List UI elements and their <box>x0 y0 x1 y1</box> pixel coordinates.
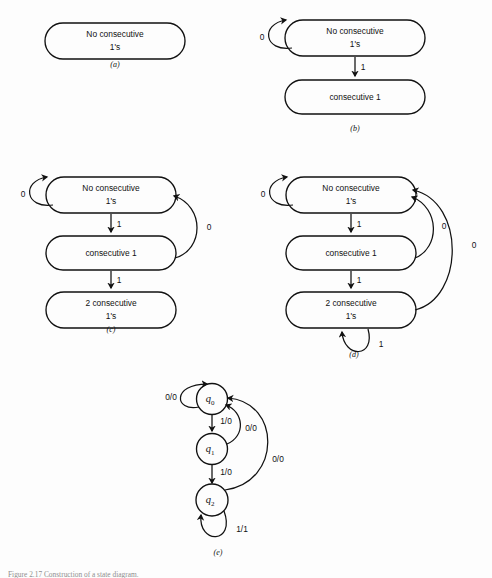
self-loop-arc-no-consecutive <box>30 177 53 205</box>
state-label-q1: q1 <box>206 443 215 456</box>
state-label-line1: No consecutive <box>86 29 144 39</box>
panel-e: q0 0/0 1/0 q1 0/0 1/0 q2 0/0 1/1 <box>150 378 330 558</box>
edge-label-q0-q1: 1/0 <box>220 416 232 426</box>
state-label-consecutive-1: consecutive 1 <box>325 248 377 258</box>
self-loop-label-q2: 1/1 <box>236 524 248 534</box>
edge-label-q2-q0: 0/0 <box>272 454 284 464</box>
panel-caption-a: (a) <box>95 60 135 69</box>
edge-label-1b: 1 <box>117 275 122 285</box>
state-label-q2: q2 <box>206 494 215 507</box>
self-loop-label-1: 1 <box>379 339 384 349</box>
state-label-2-consecutive-line1: 2 consecutive <box>325 298 377 308</box>
edge-label-0-outer: 0 <box>472 240 477 250</box>
edge-label-1a: 1 <box>357 219 362 229</box>
self-loop-label-0: 0 <box>261 189 266 199</box>
panel-caption-d: (d) <box>334 350 374 359</box>
panel-b: No consecutive 1's 0 1 consecutive 1 <box>250 14 470 124</box>
state-label-q0: q0 <box>206 393 215 406</box>
state-label-line1: No consecutive <box>326 26 384 36</box>
edge-label-1: 1 <box>361 62 366 72</box>
self-loop-arc-no-consecutive <box>269 20 292 48</box>
edge-arc-return-0-outer <box>413 190 452 310</box>
edge-label-q1-q0: 0/0 <box>245 423 257 433</box>
self-loop-label-0: 0 <box>260 32 265 42</box>
edge-arc-return-0 <box>174 196 197 258</box>
state-label-line2: 1's <box>350 39 360 49</box>
panel-c: No consecutive 1's 0 1 consecutive 1 1 2… <box>8 170 238 330</box>
self-loop-label-0: 0 <box>21 189 26 199</box>
state-label-2-consecutive-line2: 1's <box>346 311 356 321</box>
panel-a: No consecutive 1's <box>40 18 200 78</box>
state-label-2-consecutive-line1: 2 consecutive <box>85 298 137 308</box>
state-label-consecutive-1: consecutive 1 <box>329 92 381 102</box>
state-label-line2: 1's <box>106 196 116 206</box>
edge-label-q1-q2: 1/0 <box>220 467 232 477</box>
state-label-line1: No consecutive <box>82 183 140 193</box>
state-label-line2: 1's <box>346 196 356 206</box>
edge-label-0-inner: 0 <box>442 221 447 231</box>
state-label-line2: 1's <box>110 42 120 52</box>
self-loop-label-q0: 0/0 <box>165 392 177 402</box>
edge-label-1a: 1 <box>117 219 122 229</box>
state-label-2-consecutive-line2: 1's <box>106 311 116 321</box>
edge-label-1b: 1 <box>357 275 362 285</box>
panel-caption-b: (b) <box>335 124 375 133</box>
self-loop-arc-q0 <box>180 384 207 408</box>
self-loop-arc-no-consecutive <box>270 177 293 205</box>
figure-caption: Figure 2.17 Construction of a state diag… <box>8 570 139 578</box>
panel-caption-c: (c) <box>91 325 131 334</box>
panel-caption-e: (e) <box>198 548 238 557</box>
self-loop-arc-2-consecutive <box>342 329 369 352</box>
state-label-line1: No consecutive <box>322 183 380 193</box>
state-label-consecutive-1: consecutive 1 <box>85 248 137 258</box>
panel-d: No consecutive 1's 0 1 consecutive 1 1 2… <box>248 170 492 360</box>
edge-label-0-return: 0 <box>207 222 212 232</box>
